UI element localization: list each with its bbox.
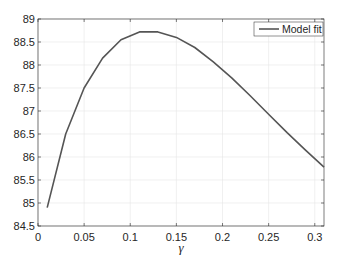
y-tick-label: 87: [23, 105, 35, 117]
x-tick-label: 0.1: [123, 231, 138, 243]
x-tick-label: 0.25: [258, 231, 279, 243]
x-tick-label: 0.15: [166, 231, 187, 243]
x-tick-label: 0: [35, 231, 41, 243]
grid-lines: [38, 19, 324, 226]
x-tick-label: 0.2: [215, 231, 230, 243]
y-tick-label: 89: [23, 13, 35, 25]
y-tick-label: 88: [23, 59, 35, 71]
x-axis-ticks: 00.050.10.150.20.250.3: [35, 19, 322, 243]
y-tick-label: 86.5: [14, 128, 35, 140]
legend-label: Model fit: [282, 23, 322, 35]
x-tick-label: 0.3: [307, 231, 322, 243]
y-tick-label: 85: [23, 197, 35, 209]
axes-box: [38, 19, 324, 226]
y-tick-label: 87.5: [14, 82, 35, 94]
y-tick-label: 84.5: [14, 220, 35, 232]
legend: Model fit: [254, 22, 323, 36]
y-tick-label: 86: [23, 151, 35, 163]
model-fit-line: [47, 32, 324, 208]
x-tick-label: 0.05: [73, 231, 94, 243]
y-tick-label: 88.5: [14, 36, 35, 48]
line-chart: 00.050.10.150.20.250.3 84.58585.58686.58…: [0, 0, 340, 269]
x-axis-label: γ: [178, 240, 184, 255]
y-tick-label: 85.5: [14, 174, 35, 186]
